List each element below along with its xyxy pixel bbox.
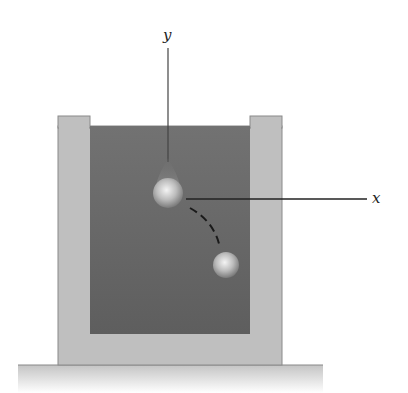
fluid xyxy=(90,126,250,334)
y-axis-label: y xyxy=(162,26,172,44)
final-ball xyxy=(213,252,239,278)
ground xyxy=(18,365,323,393)
x-axis-label: x xyxy=(372,189,381,207)
wall-fill-fix-right xyxy=(251,125,281,129)
initial-ball xyxy=(153,178,183,208)
wall-fill-fix xyxy=(59,125,89,129)
diagram-canvas: y x xyxy=(0,0,408,393)
